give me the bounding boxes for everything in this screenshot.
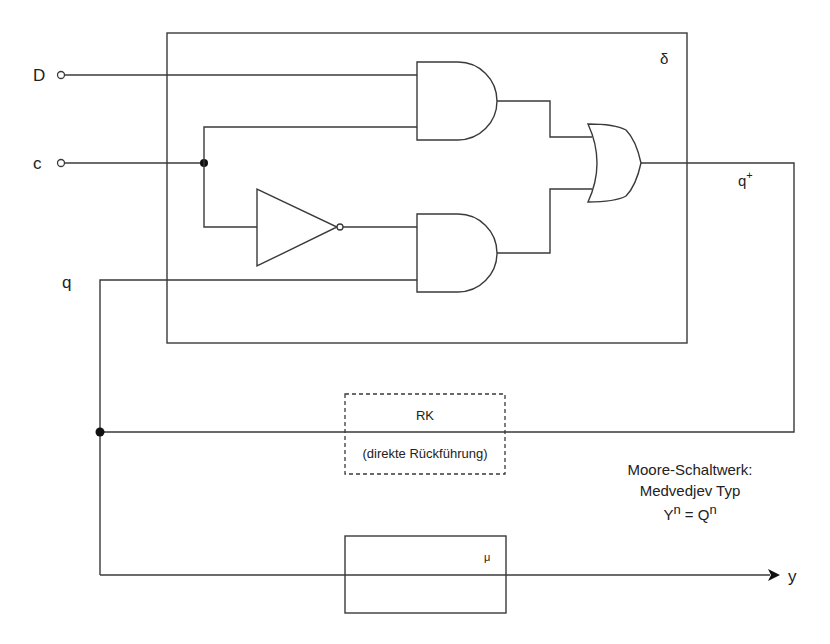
q-plus-label: q+ [738,169,753,189]
and-gate-1 [417,62,497,140]
wire-c-to-and1 [204,127,417,163]
wire-and1-to-or [497,101,592,137]
mu-label: μ [484,551,490,563]
wire-q [100,280,417,575]
wire-and2-to-or [497,189,592,253]
not-bubble [337,224,343,230]
rk-sublabel: (direkte Rückführung) [363,446,488,461]
annotation-line-2: Medvedjev Typ [640,482,741,499]
annotation-line-1: Moore-Schaltwerk: [627,461,752,478]
and-gate-2 [417,214,497,292]
delta-label: δ [660,50,668,67]
annotation-equation: Yn = Qn [663,502,716,523]
input-d-label: D [33,66,45,85]
or-gate [588,124,641,202]
input-d-terminal [58,72,65,79]
not-gate [257,189,337,266]
rk-block [345,394,505,474]
rk-label: RK [416,408,434,423]
q-label: q [62,273,71,292]
y-label: y [788,567,797,586]
input-c-label: c [33,154,42,173]
junction-q [96,428,105,437]
wire-c-to-not [204,163,257,227]
circuit-diagram: δ D c q+ q RK (direkte Rückführung) μ y … [0,0,830,644]
input-c-terminal [58,160,65,167]
